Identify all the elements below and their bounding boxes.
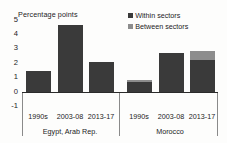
bar[interactable] [26,71,51,91]
bar-group [58,25,83,91]
zero-baseline [22,92,218,93]
bar[interactable] [58,25,83,91]
bar[interactable] [190,51,215,91]
bar[interactable] [159,53,184,91]
bar-group [89,62,114,92]
bar-group [190,51,215,91]
y-axis-tick: 0 [0,87,18,96]
bar-group [26,71,51,91]
y-axis-tick: 5 [0,15,18,24]
group-label: Egypt, Arab Rep. [22,127,118,136]
bar-group [127,80,152,92]
bar-segment-between-sectors[interactable] [190,51,215,60]
bar-segment-within-sectors[interactable] [190,60,215,92]
bar-segment-within-sectors[interactable] [58,25,83,91]
bar-segment-within-sectors[interactable] [89,62,114,92]
y-axis-title: Percentage points [18,10,78,19]
group-label: Morocco [122,127,218,136]
bar-segment-within-sectors[interactable] [159,53,184,91]
plot-area [22,20,218,106]
bar-segment-within-sectors[interactable] [127,82,152,91]
category-label: 2013-17 [182,112,222,121]
bar-group [159,53,184,91]
y-axis-tick: -1 [0,101,18,110]
y-axis-tick: 1 [0,72,18,81]
y-axis-tick: 2 [0,58,18,67]
bar-segment-within-sectors[interactable] [26,71,51,91]
y-axis-tick: 4 [0,29,18,38]
y-axis-tick: 3 [0,43,18,52]
bar[interactable] [89,62,114,92]
bar[interactable] [127,80,152,92]
category-label: 2013-17 [81,112,121,121]
chart-container: Percentage points 543210-1 Within sector… [0,0,227,143]
legend-swatch-within-icon [128,13,133,18]
